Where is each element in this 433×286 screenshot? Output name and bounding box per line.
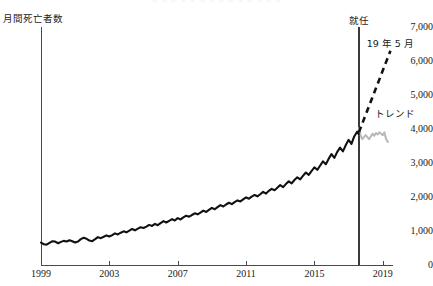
series-line-after (359, 128, 388, 142)
series-line-trend (359, 51, 391, 133)
series-overlay (0, 0, 433, 286)
series-line-actual (41, 132, 359, 245)
chart-container: ＊＊＊＊＊＊＊＊＊＊＊＊＊＊ 月間死亡者数 7,0006,0005,0004,0… (0, 0, 433, 286)
